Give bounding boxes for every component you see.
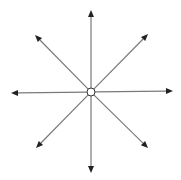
arrowhead-icon bbox=[11, 90, 18, 96]
arrow-down-right bbox=[94, 95, 148, 148]
arrowhead-icon bbox=[88, 10, 94, 17]
arrow-down bbox=[88, 96, 94, 173]
center-point-circle bbox=[87, 88, 95, 96]
arrow-shaft bbox=[94, 39, 143, 89]
arrowhead-icon bbox=[88, 166, 94, 173]
arrow-up-left bbox=[35, 35, 88, 89]
arrow-shaft bbox=[94, 95, 143, 143]
arrow-shaft bbox=[41, 95, 88, 143]
arrow-shaft bbox=[95, 91, 166, 92]
arrow-left bbox=[11, 90, 87, 96]
arrow-shaft bbox=[40, 40, 88, 89]
radial-arrows-diagram bbox=[0, 0, 181, 180]
arrow-shaft bbox=[18, 92, 87, 93]
arrow-right bbox=[95, 88, 173, 94]
arrowhead-icon bbox=[166, 88, 173, 94]
arrow-up bbox=[88, 10, 94, 88]
arrow-up-right bbox=[94, 34, 148, 89]
arrow-down-left bbox=[36, 95, 88, 148]
